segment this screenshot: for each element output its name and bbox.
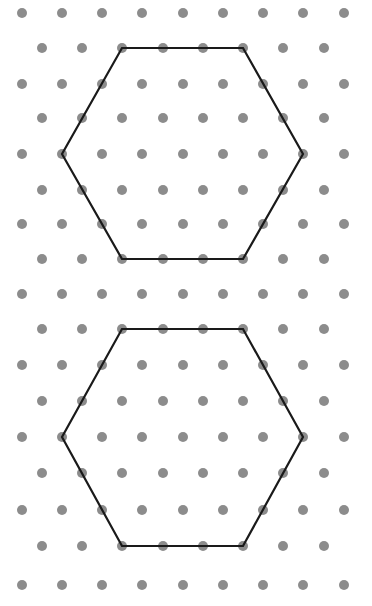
grid-dot	[17, 432, 27, 442]
grid-dot	[37, 396, 47, 406]
grid-dot	[57, 360, 67, 370]
grid-dot	[258, 432, 268, 442]
grid-dot	[117, 185, 127, 195]
grid-dot	[198, 113, 208, 123]
grid-dot	[137, 432, 147, 442]
grid-dot	[17, 289, 27, 299]
grid-dot	[117, 113, 127, 123]
grid-dot	[339, 289, 349, 299]
grid-dot	[339, 580, 349, 590]
grid-dot	[319, 113, 329, 123]
grid-dot	[198, 468, 208, 478]
grid-dot	[339, 505, 349, 515]
grid-dot	[178, 289, 188, 299]
grid-dot	[57, 505, 67, 515]
grid-dot	[178, 149, 188, 159]
grid-dot	[17, 79, 27, 89]
grid-dot	[298, 580, 308, 590]
grid-dot	[198, 396, 208, 406]
grid-dot	[198, 185, 208, 195]
grid-dot	[77, 43, 87, 53]
grid-dot	[57, 580, 67, 590]
grid-dot	[37, 113, 47, 123]
grid-dot	[57, 289, 67, 299]
grid-dot	[137, 505, 147, 515]
grid-dot	[258, 8, 268, 18]
grid-dot	[178, 79, 188, 89]
grid-dot	[298, 505, 308, 515]
grid-dot	[57, 8, 67, 18]
grid-dot	[218, 580, 228, 590]
grid-dot	[77, 541, 87, 551]
grid-dot	[57, 219, 67, 229]
grid-dot	[37, 254, 47, 264]
grid-dot	[319, 396, 329, 406]
grid-dot	[137, 360, 147, 370]
grid-dot	[37, 541, 47, 551]
grid-dot	[319, 468, 329, 478]
grid-dot	[17, 8, 27, 18]
grid-dot	[339, 360, 349, 370]
grid-dot	[218, 289, 228, 299]
grid-dot	[218, 219, 228, 229]
grid-dot	[258, 289, 268, 299]
grid-dot	[218, 432, 228, 442]
grid-dot	[218, 360, 228, 370]
grid-dot	[178, 580, 188, 590]
grid-dot	[178, 432, 188, 442]
grid-dot	[17, 580, 27, 590]
grid-dot	[258, 149, 268, 159]
grid-dot	[17, 360, 27, 370]
grid-dot	[339, 432, 349, 442]
grid-dot	[158, 185, 168, 195]
grid-dot	[319, 43, 329, 53]
grid-dot	[77, 254, 87, 264]
grid-dot	[137, 149, 147, 159]
grid-dot	[57, 79, 67, 89]
grid-dot	[238, 396, 248, 406]
grid-dot	[178, 219, 188, 229]
grid-dot	[97, 432, 107, 442]
grid-dot	[319, 254, 329, 264]
grid-dot	[158, 396, 168, 406]
grid-dot	[117, 396, 127, 406]
grid-dot	[218, 149, 228, 159]
grid-dot	[278, 43, 288, 53]
grid-dot	[17, 219, 27, 229]
grid-dot	[238, 113, 248, 123]
grid-dot	[278, 541, 288, 551]
grid-dot	[178, 360, 188, 370]
grid-dot	[218, 505, 228, 515]
grid-dot	[37, 324, 47, 334]
grid-dot	[17, 149, 27, 159]
dot-grid	[17, 8, 349, 590]
grid-dot	[117, 468, 127, 478]
grid-dot	[137, 289, 147, 299]
grid-dot	[137, 219, 147, 229]
grid-dot	[97, 580, 107, 590]
grid-dot	[339, 149, 349, 159]
grid-dot	[298, 289, 308, 299]
grid-dot	[278, 324, 288, 334]
grid-dot	[137, 8, 147, 18]
grid-dot	[238, 468, 248, 478]
grid-dot	[339, 8, 349, 18]
grid-dot	[319, 541, 329, 551]
grid-dot	[298, 219, 308, 229]
grid-dot	[97, 8, 107, 18]
grid-dot	[17, 505, 27, 515]
grid-dot	[178, 8, 188, 18]
grid-dot	[238, 185, 248, 195]
grid-dot	[158, 113, 168, 123]
grid-dot	[218, 8, 228, 18]
grid-dot	[37, 185, 47, 195]
grid-dot	[298, 79, 308, 89]
grid-dot	[178, 505, 188, 515]
grid-dot	[298, 8, 308, 18]
isometric-dot-grid-canvas	[0, 0, 372, 606]
grid-dot	[97, 289, 107, 299]
grid-dot	[218, 79, 228, 89]
grid-dot	[97, 149, 107, 159]
grid-dot	[37, 43, 47, 53]
grid-dot	[339, 219, 349, 229]
